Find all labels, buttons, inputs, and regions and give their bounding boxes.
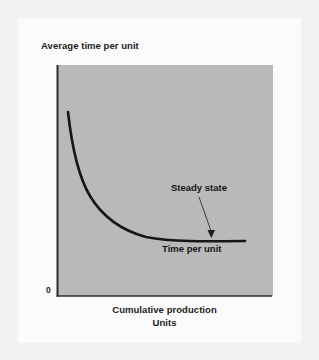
y-axis-title: Average time per unit — [41, 40, 139, 51]
x-axis-title-line-2: Units — [56, 317, 273, 330]
time-per-unit-annotation: Time per unit — [162, 243, 221, 254]
steady-state-annotation: Steady state — [171, 182, 227, 193]
plot-panel — [57, 65, 273, 296]
axis-origin-label: 0 — [46, 285, 51, 295]
x-axis-title: Cumulative production Units — [56, 304, 273, 329]
x-axis-title-line-1: Cumulative production — [56, 304, 273, 317]
figure-container: Average time per unit 0 Cumulative produ… — [0, 0, 319, 360]
